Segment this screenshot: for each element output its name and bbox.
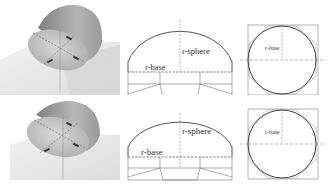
r-sphere-label: r-sphere — [182, 126, 211, 136]
r-base-label: r-base — [141, 147, 163, 157]
dome-plan-diagram: r-base — [240, 95, 333, 190]
plan-bottom: r-base — [240, 95, 333, 190]
render-bottom — [0, 95, 120, 190]
dome-profile-diagram: r-sphere r-base — [120, 0, 240, 95]
r-sphere-label: r-sphere — [182, 46, 210, 56]
r-base-label: r-base — [145, 62, 166, 72]
profile-bottom: r-sphere r-base — [120, 95, 240, 190]
dome-plan-diagram: r-base — [240, 0, 333, 95]
plan-top: r-base — [240, 0, 333, 95]
dome-profile-diagram: r-sphere r-base — [120, 95, 240, 190]
r-base-label: r-base — [265, 45, 280, 51]
r-base-label: r-base — [265, 129, 280, 135]
profile-top: r-sphere r-base — [120, 0, 240, 95]
dome-render-image — [0, 95, 120, 190]
render-top — [0, 0, 120, 95]
dome-render-image — [0, 0, 120, 95]
